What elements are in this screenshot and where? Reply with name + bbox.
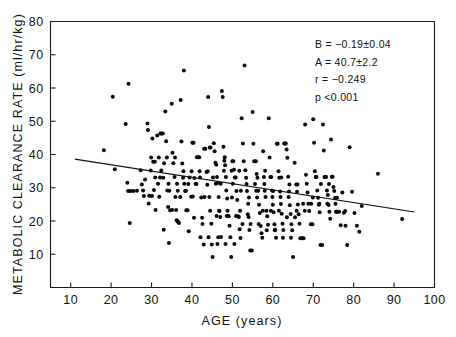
data-point — [211, 175, 215, 179]
data-point — [154, 208, 158, 212]
data-point — [239, 189, 243, 193]
data-point — [113, 167, 117, 171]
data-point — [165, 155, 169, 159]
data-point — [170, 102, 174, 106]
data-point — [186, 182, 190, 186]
data-point — [295, 209, 299, 213]
figure-container: 102030405060708090100 1020304050607080 B… — [0, 0, 456, 337]
data-point — [207, 125, 211, 129]
data-point — [216, 235, 220, 239]
data-point — [281, 228, 285, 232]
data-point — [260, 236, 264, 240]
data-point — [279, 175, 283, 179]
data-point — [140, 182, 144, 186]
data-point — [223, 155, 227, 159]
data-point — [280, 212, 284, 216]
data-point — [111, 95, 115, 99]
data-point — [234, 189, 238, 193]
data-point — [167, 241, 171, 245]
x-tick-label: 20 — [104, 293, 119, 307]
data-point — [238, 227, 242, 231]
data-point — [192, 216, 196, 220]
data-point — [260, 231, 264, 235]
data-point — [279, 202, 283, 206]
data-point — [173, 155, 177, 159]
data-point — [287, 182, 291, 186]
data-point — [175, 182, 179, 186]
data-point — [158, 175, 162, 179]
data-point — [228, 235, 232, 239]
x-tick-label: 60 — [265, 293, 280, 307]
data-point — [348, 145, 352, 149]
data-point — [150, 194, 154, 198]
data-point — [311, 117, 315, 121]
y-tick-label: 10 — [29, 248, 44, 262]
data-point — [287, 195, 291, 199]
data-point — [157, 155, 161, 159]
data-point — [176, 189, 180, 193]
data-point — [238, 209, 242, 213]
data-point — [262, 182, 266, 186]
regression-line — [75, 159, 415, 212]
data-point — [271, 203, 275, 207]
data-point — [179, 140, 183, 144]
data-point — [215, 242, 219, 246]
data-point — [198, 235, 202, 239]
data-point — [164, 139, 168, 143]
data-point — [234, 175, 238, 179]
data-point — [269, 175, 273, 179]
data-point — [228, 224, 232, 228]
data-point — [208, 209, 212, 213]
data-point — [305, 182, 309, 186]
data-point — [301, 202, 305, 206]
data-point — [281, 222, 285, 226]
data-point — [326, 193, 330, 197]
data-point — [135, 189, 139, 193]
data-point — [167, 189, 171, 193]
data-point — [156, 182, 160, 186]
data-point — [131, 189, 135, 193]
data-point — [333, 202, 337, 206]
data-point — [276, 142, 280, 146]
data-point — [224, 242, 228, 246]
data-point — [312, 141, 316, 145]
data-point — [313, 169, 317, 173]
data-point — [152, 188, 156, 192]
data-point — [309, 202, 313, 206]
data-point — [261, 209, 265, 213]
data-point — [127, 82, 131, 86]
data-point — [293, 215, 297, 219]
data-point — [170, 208, 174, 212]
data-point — [289, 212, 293, 216]
x-tick-label: 80 — [346, 293, 361, 307]
data-point — [288, 203, 292, 207]
data-point — [303, 209, 307, 213]
data-point — [180, 161, 184, 165]
data-point — [243, 63, 247, 67]
data-point — [339, 223, 343, 227]
data-point — [230, 169, 234, 173]
data-point — [285, 148, 289, 152]
data-point — [203, 147, 207, 151]
data-point — [276, 169, 280, 173]
data-point — [264, 195, 268, 199]
y-tick-label: 80 — [29, 15, 44, 29]
data-point — [214, 182, 218, 186]
data-point — [161, 132, 165, 136]
x-tick-label: 40 — [185, 293, 200, 307]
data-point — [217, 195, 221, 199]
data-point — [124, 122, 128, 126]
data-point — [177, 221, 181, 225]
x-tick-label: 70 — [306, 293, 321, 307]
data-point — [184, 189, 188, 193]
data-point — [203, 195, 207, 199]
data-point — [286, 175, 290, 179]
data-point — [240, 116, 244, 120]
data-point — [102, 148, 106, 152]
data-point — [190, 169, 194, 173]
data-point — [350, 190, 354, 194]
y-tick-label: 70 — [29, 48, 44, 62]
data-point — [274, 236, 278, 240]
y-tick-label: 20 — [29, 215, 44, 229]
data-point — [209, 146, 213, 150]
